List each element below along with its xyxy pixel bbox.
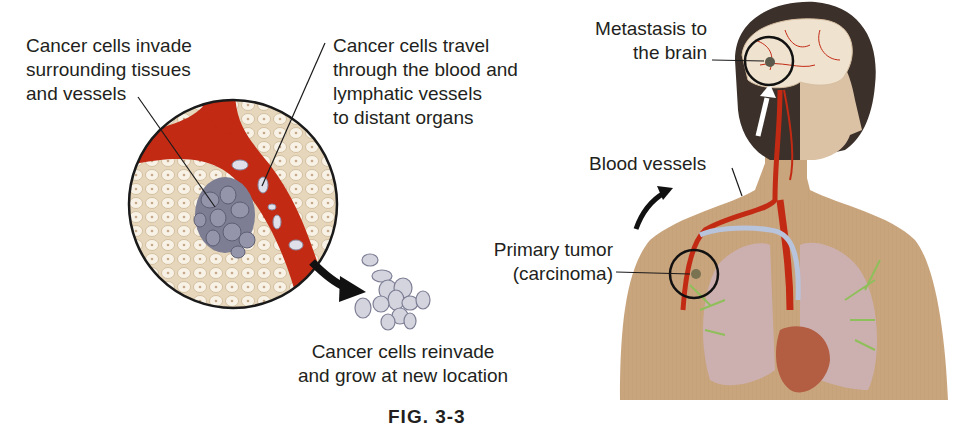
figure-caption: FIG. 3-3 <box>388 406 466 427</box>
label-brain-metastasis: Metastasis to the brain <box>560 17 707 65</box>
label-invade: Cancer cells invade surrounding tissues … <box>26 34 192 106</box>
spread-arrow-icon <box>312 262 366 302</box>
label-reinvade: Cancer cells reinvade and grow at new lo… <box>283 340 523 388</box>
brain-metastasis-spot <box>765 57 775 67</box>
label-blood-vessels: Blood vessels <box>589 152 706 176</box>
label-travel: Cancer cells travel through the blood an… <box>333 34 518 130</box>
tissue-magnifier <box>120 90 337 310</box>
curved-arrow-icon <box>636 186 673 229</box>
reinvade-cells <box>355 254 430 330</box>
primary-tumor-spot <box>691 269 701 279</box>
label-primary-tumor: Primary tumor (carcinoma) <box>470 238 613 286</box>
leader-vessels <box>732 168 742 196</box>
